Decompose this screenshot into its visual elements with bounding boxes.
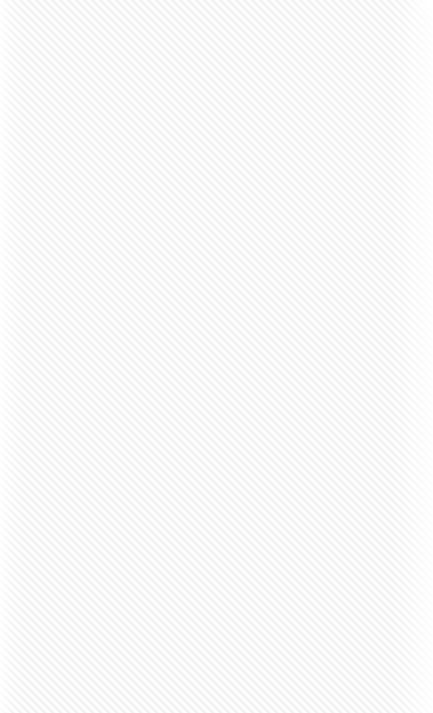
diagonal-stripe-pattern [0,0,433,713]
empty-content-pane [0,0,433,713]
